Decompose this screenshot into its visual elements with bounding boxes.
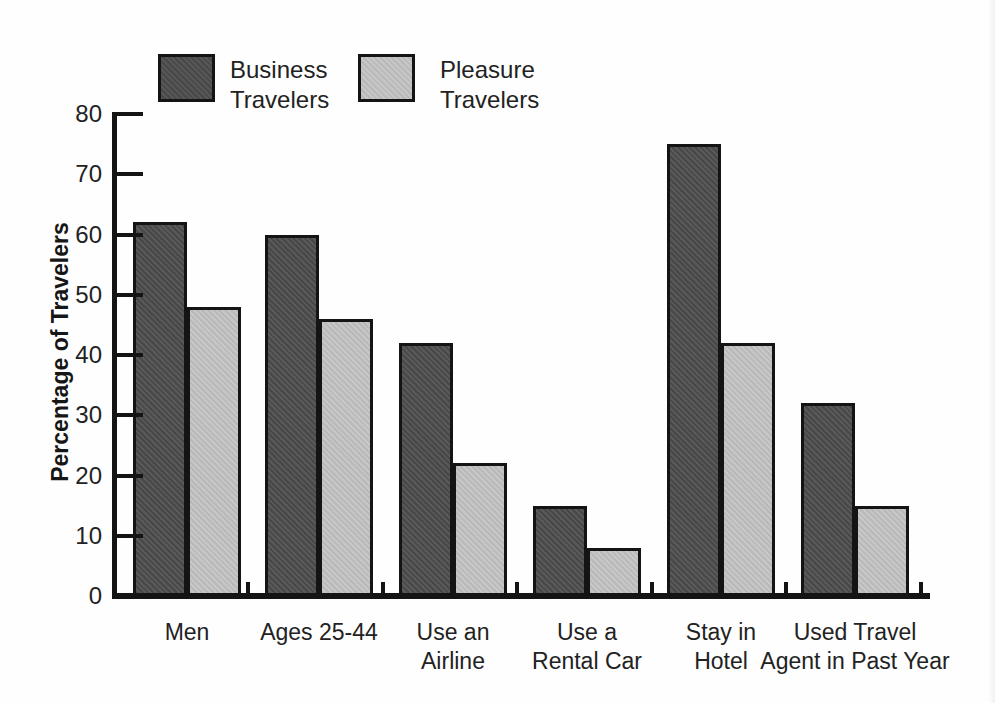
bar-business-5 — [667, 144, 721, 599]
y-tick-label-10: 10 — [38, 522, 102, 550]
bar-pleasure-6 — [855, 506, 909, 599]
bar-pleasure-3 — [453, 463, 507, 599]
bar-chart-figure: Business Travelers Pleasure Travelers Pe… — [0, 0, 995, 703]
scan-edge-shading — [988, 0, 995, 703]
bar-business-3 — [399, 343, 453, 599]
bar-pleasure-4 — [587, 548, 641, 599]
y-tick-label-0: 0 — [38, 582, 102, 610]
x-group-tick-4 — [650, 582, 654, 593]
y-tick-label-70: 70 — [38, 160, 102, 188]
y-tick-10 — [117, 534, 143, 538]
legend-label-pleasure: Pleasure Travelers — [440, 55, 539, 115]
legend-label-business: Business Travelers — [230, 55, 329, 115]
y-tick-20 — [117, 474, 143, 478]
bar-pleasure-2 — [319, 319, 373, 599]
y-tick-label-20: 20 — [38, 462, 102, 490]
bar-business-1 — [133, 222, 187, 599]
bar-pleasure-5 — [721, 343, 775, 599]
y-tick-label-40: 40 — [38, 341, 102, 369]
y-tick-label-50: 50 — [38, 281, 102, 309]
y-tick-30 — [117, 413, 143, 417]
x-axis-line — [112, 593, 930, 599]
legend-swatch-pleasure — [358, 54, 415, 102]
y-tick-label-80: 80 — [38, 100, 102, 128]
y-tick-60 — [117, 233, 143, 237]
x-group-tick-3 — [515, 582, 519, 593]
y-tick-label-60: 60 — [38, 221, 102, 249]
y-tick-40 — [117, 353, 143, 357]
x-group-tick-2 — [381, 582, 385, 593]
bar-business-6 — [801, 403, 855, 599]
bar-pleasure-1 — [187, 307, 241, 599]
y-tick-label-30: 30 — [38, 401, 102, 429]
bar-business-4 — [533, 506, 587, 599]
y-tick-70 — [117, 172, 143, 176]
y-tick-50 — [117, 293, 143, 297]
x-category-label-6: Used Travel Agent in Past Year — [715, 618, 995, 676]
legend-swatch-business — [158, 54, 215, 102]
y-tick-80 — [117, 112, 143, 116]
x-group-tick-1 — [246, 582, 250, 593]
x-group-tick-5 — [784, 582, 788, 593]
bar-business-2 — [265, 235, 319, 599]
x-group-tick-6 — [919, 582, 923, 593]
